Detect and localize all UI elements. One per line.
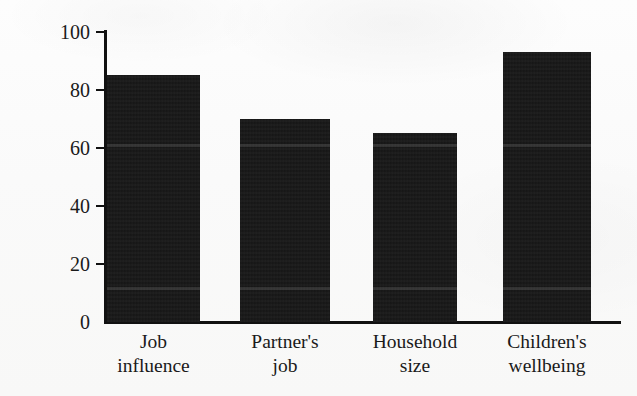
x-label-line2: job: [233, 354, 337, 378]
y-tick-label-0: 0: [46, 312, 90, 332]
y-tick-mark-40: [96, 205, 106, 207]
bar-job-influence: [107, 75, 200, 322]
y-tick-label-100: 100: [46, 22, 90, 42]
bar-childrens-wellbeing: [503, 52, 591, 322]
bar-chart-figure: Individuals 100 80 60 40 20 0 Job influe…: [0, 0, 637, 396]
x-label-partners-job: Partner's job: [233, 330, 337, 378]
x-label-line1: Household: [373, 331, 458, 352]
x-label-household-size: Household size: [360, 330, 470, 378]
bar-household-size: [373, 133, 457, 322]
x-label-line1: Job: [140, 331, 167, 352]
y-tick-mark-20: [96, 263, 106, 265]
y-tick-label-20: 20: [46, 254, 90, 274]
y-tick-label-80: 80: [46, 80, 90, 100]
x-label-job-influence: Job influence: [103, 330, 204, 378]
y-tick-mark-80: [96, 89, 106, 91]
x-label-line1: Children's: [507, 331, 586, 352]
x-label-line2: wellbeing: [489, 354, 605, 378]
y-tick-mark-60: [96, 147, 106, 149]
x-label-line2: size: [360, 354, 470, 378]
x-label-line2: influence: [103, 354, 204, 378]
x-label-line1: Partner's: [251, 331, 318, 352]
y-tick-label-40: 40: [46, 196, 90, 216]
x-label-childrens-wellbeing: Children's wellbeing: [489, 330, 605, 378]
y-tick-mark-100: [96, 31, 106, 33]
bar-partners-job: [240, 119, 330, 322]
y-tick-label-60: 60: [46, 138, 90, 158]
